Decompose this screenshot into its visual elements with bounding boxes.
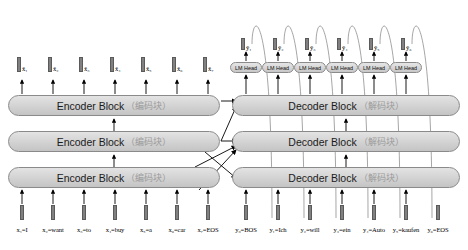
decoder-input-token-label-4: y₃=ein <box>327 226 357 233</box>
lm-head-2[interactable]: LM Head <box>262 62 294 73</box>
decoder-prediction-label-3: ŷ₃ <box>310 44 315 51</box>
decoder-block-3[interactable]: Decoder Block（解码块） <box>232 167 460 188</box>
decoder-input-token-bar-5 <box>372 205 376 220</box>
decoder-prediction-label-1: ŷ₁ <box>246 44 251 51</box>
encoder-input-token-label-6: x₆=car <box>164 226 190 233</box>
decoder-prediction-bar-2 <box>273 38 277 50</box>
decoder-input-token-bar-3 <box>308 205 312 220</box>
connector-layer <box>0 0 468 250</box>
decoder-prediction-bar-1 <box>241 38 245 50</box>
lm-head-1[interactable]: LM Head <box>230 62 262 73</box>
feedback-arc <box>380 26 400 218</box>
encoder-input-arrows <box>22 190 208 204</box>
decoder-input-token-label-3: y₂=will <box>295 226 325 233</box>
feedback-arc <box>284 26 304 218</box>
encoder-output-embedding-bar-3 <box>79 57 83 72</box>
decoder-input-token-label-1: y₀=BOS <box>231 226 261 233</box>
decoder-prediction-label-5: ŷ₅ <box>374 44 379 51</box>
lm-head-4[interactable]: LM Head <box>326 62 358 73</box>
encoder-input-token-bar-2 <box>51 205 55 220</box>
decoder-input-token-label-5: y₄=Auto <box>359 226 389 233</box>
encoder-block-2[interactable]: Encoder Block（编码块） <box>8 131 220 152</box>
encoder-output-embedding-bar-4 <box>110 57 114 72</box>
decoder-input-token-bar-7 <box>436 205 440 220</box>
encoder-block-label: Encoder Block <box>57 172 125 184</box>
encoder-output-embedding-label-7: x̄₇ <box>208 65 213 72</box>
diagram-canvas: Encoder Block（编码块）Encoder Block（编码块）Enco… <box>0 0 468 250</box>
decoder-input-token-bar-2 <box>276 205 280 220</box>
decoder-prediction-bar-3 <box>305 38 309 50</box>
feedback-arc <box>412 26 432 218</box>
decoder-prediction-bar-6 <box>401 38 405 50</box>
decoder-block-label: Decoder Block <box>288 172 356 184</box>
encoder-output-embedding-bar-6 <box>172 57 176 72</box>
encoder-input-token-bar-1 <box>20 205 24 220</box>
encoder-block-label-cn: （编码块） <box>126 99 171 112</box>
encoder-output-embedding-bar-1 <box>17 57 21 72</box>
encoder-input-token-label-4: x₄=buy <box>102 226 128 233</box>
encoder-block-3[interactable]: Encoder Block（编码块） <box>8 167 220 188</box>
encoder-output-embedding-bar-2 <box>48 57 52 72</box>
encoder-output-embedding-label-3: x̄₃ <box>84 65 89 72</box>
decoder-block-2[interactable]: Decoder Block（解码块） <box>232 131 460 152</box>
decoder-prediction-bar-4 <box>337 38 341 50</box>
encoder-input-token-bar-7 <box>206 205 210 220</box>
encoder-input-token-bar-3 <box>82 205 86 220</box>
encoder-block-label: Encoder Block <box>57 136 125 148</box>
decoder-input-token-bar-6 <box>404 205 408 220</box>
encoder-output-embedding-label-2: x̄₂ <box>53 65 58 72</box>
encoder-input-token-bar-4 <box>113 205 117 220</box>
decoder-input-token-label-6: y₅=kaufen <box>391 226 421 233</box>
decoder-block-label-cn: （解码块） <box>359 99 404 112</box>
encoder-output-embedding-label-1: x̄₁ <box>22 65 27 72</box>
decoder-prediction-bar-5 <box>369 38 373 50</box>
encoder-input-token-label-7: x₇=EOS <box>195 226 221 233</box>
lm-head-3[interactable]: LM Head <box>294 62 326 73</box>
encoder-block-1[interactable]: Encoder Block（编码块） <box>8 95 220 116</box>
decoder-input-token-label-7: y₆=EOS <box>423 226 453 233</box>
encoder-input-token-bar-6 <box>175 205 179 220</box>
encoder-output-embedding-label-6: x̄₆ <box>177 65 182 72</box>
feedback-arc <box>316 26 336 218</box>
lm-head-output-arrows <box>246 52 406 61</box>
decoder-input-token-bar-1 <box>244 205 248 220</box>
encoder-output-embedding-bar-5 <box>141 57 145 72</box>
decoder-block-label-cn: （解码块） <box>359 135 404 148</box>
decoder-input-arrows <box>246 190 406 204</box>
feedback-arc <box>252 26 272 218</box>
lm-head-input-arrows <box>246 75 406 94</box>
lm-head-5[interactable]: LM Head <box>358 62 390 73</box>
decoder-input-token-label-2: y₁=Ich <box>263 226 293 233</box>
decoder-prediction-label-4: ŷ₄ <box>342 44 347 51</box>
feedback-arc <box>348 26 368 218</box>
encoder-block-label-cn: （编码块） <box>126 135 171 148</box>
decoder-block-label-cn: （解码块） <box>359 171 404 184</box>
decoder-block-label: Decoder Block <box>288 100 356 112</box>
encoder-output-embedding-bar-7 <box>203 57 207 72</box>
lm-head-6[interactable]: LM Head <box>390 62 422 73</box>
encoder-input-token-label-2: x₂=want <box>40 226 66 233</box>
encoder-input-token-label-1: x₁=I <box>9 226 35 233</box>
encoder-input-token-label-5: x₅=a <box>133 226 159 233</box>
encoder-output-arrows <box>22 80 208 94</box>
encoder-block-label: Encoder Block <box>57 100 125 112</box>
decoder-block-label: Decoder Block <box>288 136 356 148</box>
decoder-block-1[interactable]: Decoder Block（解码块） <box>232 95 460 116</box>
encoder-output-embedding-label-5: x̄₅ <box>146 65 151 72</box>
encoder-input-token-bar-5 <box>144 205 148 220</box>
decoder-input-token-bar-4 <box>340 205 344 220</box>
encoder-output-embedding-label-4: x̄₄ <box>115 65 120 72</box>
decoder-prediction-label-6: ŷ₆ <box>406 44 411 51</box>
encoder-input-token-label-3: x₃=to <box>71 226 97 233</box>
decoder-prediction-label-2: ŷ₂ <box>278 44 283 51</box>
encoder-block-label-cn: （编码块） <box>126 171 171 184</box>
